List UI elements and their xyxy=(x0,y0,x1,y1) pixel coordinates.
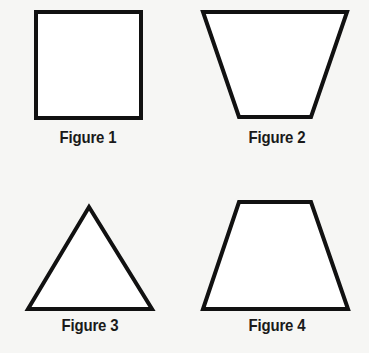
figure-4-trapezoid xyxy=(203,202,348,309)
figure-3-triangle xyxy=(28,207,152,309)
figure-4-label: Figure 4 xyxy=(249,316,306,336)
figure-3-label: Figure 3 xyxy=(62,316,119,336)
figure-1-square xyxy=(36,12,141,118)
figures-canvas xyxy=(0,0,369,353)
figure-1-label: Figure 1 xyxy=(60,128,117,148)
figure-2-label: Figure 2 xyxy=(249,128,306,148)
figure-2-inverted-trapezoid xyxy=(203,12,347,117)
